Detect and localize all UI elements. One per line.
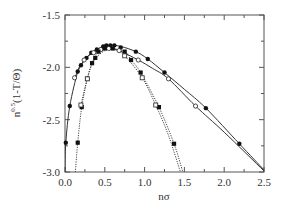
data-point bbox=[107, 46, 111, 50]
data-point bbox=[96, 50, 100, 54]
data-point bbox=[134, 49, 138, 53]
x-tick-label: 2.5 bbox=[257, 176, 271, 188]
x-tick-label: 1.5 bbox=[178, 176, 192, 188]
data-point bbox=[93, 56, 97, 60]
y-tick-label: -2.5 bbox=[43, 114, 61, 126]
y-tick-label: -2.0 bbox=[43, 61, 61, 73]
data-point bbox=[82, 58, 86, 62]
x-tick-labels: 0.00.51.01.52.02.5 bbox=[58, 176, 271, 188]
data-point bbox=[111, 46, 115, 50]
data-point bbox=[72, 76, 76, 80]
data-point bbox=[76, 141, 80, 145]
data-point bbox=[79, 103, 83, 107]
data-point bbox=[76, 69, 80, 73]
data-curves bbox=[65, 45, 264, 172]
data-point bbox=[90, 61, 94, 65]
series-curve bbox=[75, 48, 264, 170]
data-point bbox=[162, 70, 166, 74]
x-axis-title: nσ bbox=[158, 190, 170, 202]
data-point bbox=[68, 104, 72, 108]
data-point bbox=[103, 46, 107, 50]
data-point bbox=[123, 54, 127, 58]
series-curve bbox=[65, 45, 264, 172]
data-point bbox=[64, 140, 68, 144]
x-tick-label: 1.0 bbox=[138, 176, 152, 188]
data-point bbox=[79, 63, 83, 67]
data-point bbox=[166, 77, 170, 81]
x-tick-label: 0.0 bbox=[58, 176, 72, 188]
y-tick-labels: -1.5-2.0-2.5-3.0 bbox=[43, 9, 61, 178]
data-point bbox=[92, 51, 96, 55]
y-tick-label: -1.5 bbox=[43, 9, 61, 21]
data-point bbox=[123, 50, 127, 54]
data-point bbox=[117, 48, 121, 52]
data-point bbox=[204, 106, 208, 110]
data-point bbox=[193, 104, 197, 108]
axis-ticks bbox=[65, 15, 264, 172]
plot-frame bbox=[65, 15, 264, 172]
x-tick-label: 0.5 bbox=[98, 176, 112, 188]
data-point bbox=[146, 57, 150, 61]
data-point bbox=[129, 58, 133, 62]
x-tick-label: 2.0 bbox=[217, 176, 231, 188]
data-point bbox=[237, 142, 241, 146]
series-curve bbox=[81, 49, 181, 172]
data-point bbox=[172, 142, 176, 146]
data-point bbox=[154, 103, 158, 107]
data-point bbox=[140, 76, 144, 80]
y-tick-label: -3.0 bbox=[43, 166, 61, 178]
series-curve bbox=[75, 48, 182, 172]
chart: 0.00.51.01.52.02.5 -1.5-2.0-2.5-3.0 nσ n… bbox=[0, 0, 285, 211]
data-point bbox=[139, 70, 143, 74]
data-point bbox=[136, 58, 140, 62]
data-point bbox=[85, 77, 89, 81]
y-axis-title: n0.5(1-T/Θ) bbox=[9, 68, 23, 117]
